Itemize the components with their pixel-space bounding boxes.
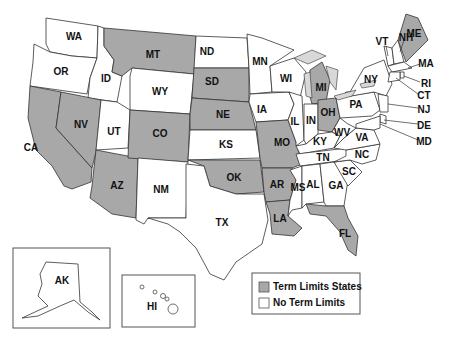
hawaii-inset-frame <box>122 275 195 327</box>
state-label-or: OR <box>54 66 70 77</box>
state-hi-island <box>140 285 144 289</box>
state-label-sc: SC <box>342 166 356 177</box>
state-label-la: LA <box>273 213 286 224</box>
state-label-in: IN <box>306 115 316 126</box>
leader-line-ct <box>396 78 418 94</box>
state-label-ak: AK <box>55 275 70 286</box>
state-label-ms: MS <box>291 182 306 193</box>
state-label-tx: TX <box>216 217 229 228</box>
legend-label-term-limits: Term Limits States <box>273 281 362 292</box>
state-label-ny: NY <box>364 74 378 85</box>
state-label-ky: KY <box>313 136 327 147</box>
state-label-pa: PA <box>349 99 362 110</box>
state-label-ok: OK <box>227 172 243 183</box>
legend-label-no-term-limits: No Term Limits <box>273 297 345 308</box>
state-label-id: ID <box>101 73 111 84</box>
state-label-wv: WV <box>334 127 350 138</box>
state-label-ga: GA <box>329 180 344 191</box>
state-label-me: ME <box>407 28 422 39</box>
state-label-co: CO <box>153 128 168 139</box>
state-label-il: IL <box>291 116 300 127</box>
state-label-mt: MT <box>146 49 160 60</box>
state-label-ri: RI <box>421 78 431 89</box>
leader-line-md <box>380 124 418 140</box>
state-label-nv: NV <box>74 119 88 130</box>
state-label-md: MD <box>416 136 432 147</box>
state-label-wy: WY <box>152 86 168 97</box>
state-nj <box>378 94 388 112</box>
leader-line-de <box>384 120 418 124</box>
state-label-ia: IA <box>257 104 267 115</box>
state-ri <box>400 72 404 78</box>
state-ia <box>249 92 294 122</box>
state-de <box>380 114 386 124</box>
leader-line-nj <box>388 104 418 108</box>
state-label-az: AZ <box>110 180 123 191</box>
state-label-ca: CA <box>24 142 38 153</box>
legend-swatch-term-limits <box>259 282 269 292</box>
state-hi-island <box>161 294 166 299</box>
state-hi-island <box>165 297 169 301</box>
state-ct <box>388 72 400 82</box>
state-md <box>356 116 380 130</box>
state-label-nj: NJ <box>418 104 431 115</box>
state-label-al: AL <box>306 179 319 190</box>
state-label-mi: MI <box>315 82 326 93</box>
state-label-wa: WA <box>66 31 82 42</box>
state-label-nm: NM <box>153 184 169 195</box>
state-label-ks: KS <box>219 139 233 150</box>
state-label-mn: MN <box>252 56 268 67</box>
state-label-oh: OH <box>321 107 336 118</box>
us-term-limits-map: WAORIDMTWYCANVUTAZCONMNDSDNEKSOKTXMNIAMO… <box>0 0 465 342</box>
state-label-ar: AR <box>270 179 285 190</box>
state-hi-island <box>153 290 157 294</box>
alaska-inset: AK <box>13 248 110 328</box>
state-label-ut: UT <box>107 126 120 137</box>
lake-superior <box>294 50 326 64</box>
state-label-ct: CT <box>417 90 430 101</box>
state-label-vt: VT <box>376 36 389 47</box>
leader-line-ri <box>404 76 420 82</box>
state-label-ma: MA <box>418 58 434 69</box>
state-label-nd: ND <box>200 46 214 57</box>
state-label-nc: NC <box>355 149 369 160</box>
state-sd <box>192 68 249 102</box>
state-hi-island <box>168 304 178 314</box>
state-label-fl: FL <box>339 228 351 239</box>
state-label-sd: SD <box>205 76 219 87</box>
hawaii-inset: HI <box>122 275 195 327</box>
state-label-de: DE <box>417 120 431 131</box>
state-label-mo: MO <box>274 137 290 148</box>
legend: Term Limits States No Term Limits <box>252 273 362 314</box>
state-label-hi: HI <box>147 301 157 312</box>
legend-swatch-no-term-limits <box>259 298 269 308</box>
state-label-wi: WI <box>280 73 292 84</box>
state-label-va: VA <box>355 132 368 143</box>
state-label-tn: TN <box>316 152 329 163</box>
state-label-ne: NE <box>216 109 230 120</box>
